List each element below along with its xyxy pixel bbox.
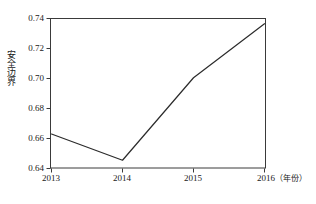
x-tick-label: 2014 xyxy=(113,173,131,183)
x-axis-tick-labels: 2013 2014 2015 2016（年份） xyxy=(0,0,316,204)
x-tick-label: 2015 xyxy=(184,173,202,183)
x-tick-label-with-unit: 2016（年份） xyxy=(257,173,307,184)
x-tick-label: 2016 xyxy=(257,173,275,183)
x-axis-unit-label: （年份） xyxy=(275,174,307,183)
x-tick-label: 2013 xyxy=(42,173,60,183)
line-chart: 安全边界 0.74 0.72 0.70 0.68 0.66 0.64 xyxy=(0,0,316,204)
